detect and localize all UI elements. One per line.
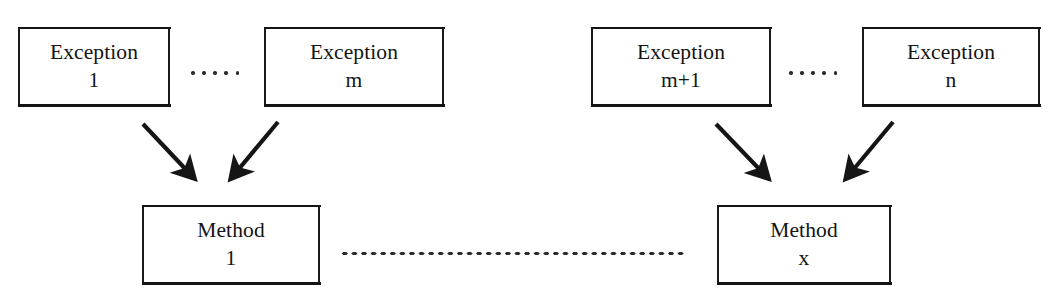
method-1-label-line2: 1	[226, 247, 237, 270]
exception-m-plus-1-node: Exception m+1	[591, 27, 771, 106]
ellipsis-dot	[224, 71, 228, 75]
ellipsis-exceptions-right	[789, 70, 837, 76]
exception-m-plus-1-label-line1: Exception	[637, 41, 725, 64]
method-1-node: Method 1	[142, 205, 320, 284]
ellipsis-dot	[202, 71, 206, 75]
exception-m-node: Exception m	[264, 27, 444, 106]
exception-1-node: Exception 1	[18, 27, 170, 106]
ellipsis-dot	[213, 71, 217, 75]
exception-m-plus-1-label-line2: m+1	[661, 69, 701, 92]
exception-m-label-line2: m	[346, 69, 363, 92]
exception-n-label-line2: n	[946, 69, 957, 92]
ellipsis-dot	[800, 71, 804, 75]
ellipsis-dot	[236, 71, 240, 75]
exception-1-label-line2: 1	[89, 69, 100, 92]
ellipsis-exceptions-left	[191, 70, 239, 76]
exception-1-label-line1: Exception	[50, 41, 138, 64]
edge-exception-n-to-method-x	[848, 122, 893, 176]
edge-exception-1-to-method-1	[143, 124, 192, 176]
method-x-node: Method x	[717, 205, 891, 284]
ellipsis-methods	[340, 251, 686, 256]
ellipsis-dot	[191, 71, 195, 75]
edge-exception-m-plus-1-to-method-x	[716, 124, 766, 176]
exception-n-node: Exception n	[862, 27, 1040, 106]
method-x-label-line2: x	[799, 247, 810, 270]
ellipsis-dot	[834, 71, 838, 75]
ellipsis-dot	[822, 71, 826, 75]
ellipsis-dot	[789, 71, 793, 75]
ellipsis-dot	[811, 71, 815, 75]
exception-m-label-line1: Exception	[310, 41, 398, 64]
diagram-canvas: Exception 1 Exception m Exception m+1 Ex…	[0, 0, 1049, 296]
edge-exception-m-to-method-1	[233, 122, 278, 176]
method-x-label-line1: Method	[770, 219, 837, 242]
method-1-label-line1: Method	[197, 219, 264, 242]
exception-n-label-line1: Exception	[907, 41, 995, 64]
